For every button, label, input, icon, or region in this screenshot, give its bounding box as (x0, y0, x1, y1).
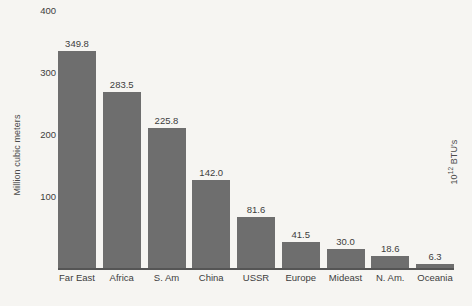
bar-rect[interactable] (371, 256, 409, 268)
x-axis-tick-label: Europe (282, 272, 320, 283)
x-axis-tick-label: Oceania (416, 272, 454, 283)
bar-rect[interactable] (58, 51, 96, 268)
bar-value-label: 349.8 (65, 38, 89, 49)
bar-rect[interactable] (327, 249, 365, 268)
x-axis-tick-label: USSR (237, 272, 275, 283)
x-axis-tick-label: Mideast (327, 272, 365, 283)
bar-group[interactable]: 6.3 (416, 20, 454, 268)
bar-value-label: 81.6 (247, 204, 266, 215)
bar-value-label: 283.5 (110, 79, 134, 90)
bar-value-label: 6.3 (428, 251, 441, 262)
bar-rect[interactable] (148, 128, 186, 268)
x-axis-tick-label: N. Am. (371, 272, 409, 283)
x-axis-tick-label: Far East (58, 272, 96, 283)
bar-value-label: 142.0 (199, 167, 223, 178)
bar-value-label: 225.8 (155, 115, 179, 126)
x-axis-tick-label: China (192, 272, 230, 283)
bars-container: 349.8283.5225.8142.081.641.530.018.66.3 (58, 20, 454, 268)
x-axis-line (58, 268, 454, 270)
bar-group[interactable]: 142.0 (192, 20, 230, 268)
y-axis-tick-label: 300 (4, 67, 56, 78)
bar-group[interactable]: 30.0 (327, 20, 365, 268)
bar-chart: Million cubic meters 1012 BTU's 10020030… (0, 0, 472, 306)
bar-rect[interactable] (282, 242, 320, 268)
bar-group[interactable]: 283.5 (103, 20, 141, 268)
y-axis-ticks: 100200300400 (0, 0, 56, 306)
bar-rect[interactable] (237, 217, 275, 268)
y-axis-tick-label: 200 (4, 129, 56, 140)
bar-group[interactable]: 81.6 (237, 20, 275, 268)
y-axis-tick-label: 400 (4, 5, 56, 16)
bar-rect[interactable] (103, 92, 141, 268)
plot-area: 349.8283.5225.8142.081.641.530.018.66.3 (58, 10, 454, 268)
x-axis-tick-label: Africa (103, 272, 141, 283)
bar-rect[interactable] (192, 180, 230, 268)
x-axis-category-labels: Far EastAfricaS. AmChinaUSSREuropeMideas… (58, 272, 454, 283)
bar-group[interactable]: 225.8 (148, 20, 186, 268)
bar-group[interactable]: 349.8 (58, 20, 96, 268)
y-axis-tick-label: 100 (4, 191, 56, 202)
x-axis-tick-label: S. Am (148, 272, 186, 283)
bar-value-label: 18.6 (381, 243, 400, 254)
bar-group[interactable]: 41.5 (282, 20, 320, 268)
bar-value-label: 30.0 (336, 236, 355, 247)
bar-group[interactable]: 18.6 (371, 20, 409, 268)
bar-value-label: 41.5 (292, 229, 311, 240)
